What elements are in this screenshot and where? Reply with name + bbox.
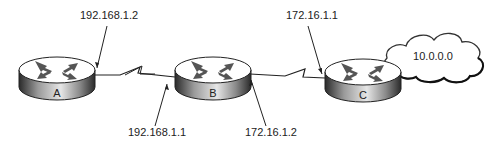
router-b: B (175, 57, 251, 100)
router-c: C (325, 59, 401, 102)
ip-label-a-b-top: 192.168.1.2 (80, 9, 138, 21)
pointer-line (308, 26, 322, 74)
router-label: C (359, 89, 367, 101)
ip-label-b-c-top: 172.16.1.1 (286, 9, 338, 21)
network-diagram: 10.0.0.0 A B C 192.168.1.2 192.168.1.1 1… (0, 0, 501, 152)
pointer-arrowhead (318, 68, 322, 74)
link-b-c (250, 69, 325, 78)
ip-label-a-b-bottom: 192.168.1.1 (128, 126, 186, 138)
router-a: A (19, 57, 95, 100)
router-label: A (53, 87, 61, 99)
cloud-label: 10.0.0.0 (413, 50, 453, 62)
pointer-line (251, 80, 266, 126)
ip-label-b-c-bottom: 172.16.1.2 (245, 126, 297, 138)
pointer-line (97, 26, 107, 68)
pointer-line (155, 84, 167, 126)
link-a-b (95, 66, 175, 77)
pointer-arrowhead (165, 84, 169, 90)
pointer-arrowhead (95, 62, 99, 68)
router-label: B (209, 87, 216, 99)
